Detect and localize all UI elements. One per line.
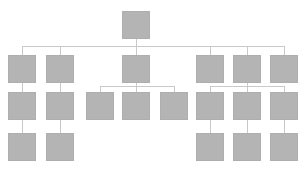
org-node-n18[interactable]: [196, 133, 224, 161]
org-node-label: [123, 93, 149, 119]
org-node-label: [197, 134, 223, 160]
org-node-n6[interactable]: [233, 55, 261, 83]
org-node-n14[interactable]: [233, 92, 261, 120]
org-node-label: [271, 134, 297, 160]
org-node-label: [9, 93, 35, 119]
org-node-n3[interactable]: [46, 55, 74, 83]
org-node-label: [161, 93, 187, 119]
org-node-label: [271, 93, 297, 119]
org-node-label: [9, 134, 35, 160]
org-node-label: [123, 56, 149, 82]
org-node-n16[interactable]: [8, 133, 36, 161]
org-node-label: [9, 56, 35, 82]
org-node-n7[interactable]: [270, 55, 298, 83]
org-node-n1[interactable]: [122, 11, 150, 39]
org-node-label: [123, 12, 149, 38]
org-node-n4[interactable]: [122, 55, 150, 83]
org-node-n17[interactable]: [46, 133, 74, 161]
org-node-label: [234, 56, 260, 82]
org-node-n13[interactable]: [196, 92, 224, 120]
org-node-label: [197, 56, 223, 82]
org-node-n2[interactable]: [8, 55, 36, 83]
org-node-n20[interactable]: [270, 133, 298, 161]
org-node-n10[interactable]: [86, 92, 114, 120]
org-node-label: [87, 93, 113, 119]
org-node-n19[interactable]: [233, 133, 261, 161]
org-node-label: [271, 56, 297, 82]
org-node-n11[interactable]: [122, 92, 150, 120]
org-chart-diagram: [0, 0, 305, 172]
org-node-label: [234, 134, 260, 160]
org-node-n5[interactable]: [196, 55, 224, 83]
org-node-label: [47, 56, 73, 82]
org-node-n12[interactable]: [160, 92, 188, 120]
org-node-n8[interactable]: [8, 92, 36, 120]
org-node-label: [47, 93, 73, 119]
org-node-label: [47, 134, 73, 160]
org-node-n9[interactable]: [46, 92, 74, 120]
org-node-n15[interactable]: [270, 92, 298, 120]
org-node-label: [197, 93, 223, 119]
org-node-label: [234, 93, 260, 119]
